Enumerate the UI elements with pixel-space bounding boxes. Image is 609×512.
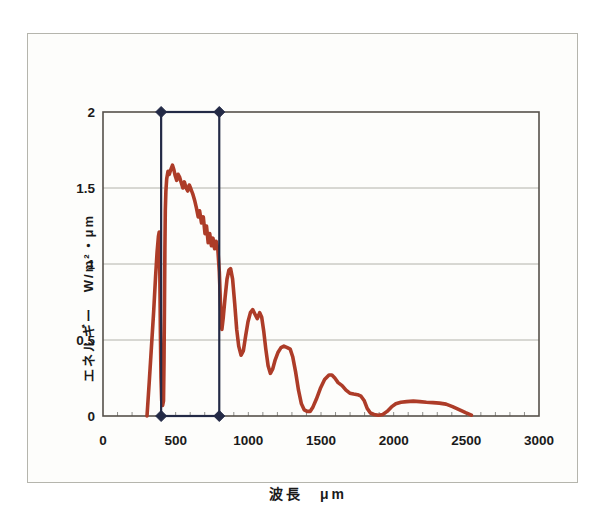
x-tick-label-2000: 2000	[379, 433, 409, 448]
solar-spectrum-curve	[147, 165, 471, 416]
x-tick-label-1500: 1500	[306, 433, 336, 448]
band-diamond-marker-top-left	[156, 107, 167, 118]
scanned-chart-page: エネルギー W/m²・μm 波長 μm 00.511.5205001000150…	[0, 0, 609, 512]
y-tick-label-2: 2	[87, 105, 95, 120]
x-tick-label-2500: 2500	[451, 433, 481, 448]
band-diamond-marker-top-right	[214, 107, 225, 118]
y-tick-label-1: 1	[87, 257, 95, 272]
y-tick-label-1.5: 1.5	[76, 181, 95, 196]
x-tick-label-1000: 1000	[233, 433, 263, 448]
x-tick-label-500: 500	[164, 433, 187, 448]
band-diamond-marker-bottom-right	[214, 411, 225, 422]
x-tick-label-3000: 3000	[524, 433, 554, 448]
x-tick-label-0: 0	[99, 433, 107, 448]
y-tick-label-0.5: 0.5	[76, 333, 95, 348]
solar-spectrum-chart: 00.511.52050010001500200025003000	[0, 0, 609, 512]
y-tick-label-0: 0	[87, 409, 95, 424]
band-diamond-marker-bottom-left	[156, 411, 167, 422]
